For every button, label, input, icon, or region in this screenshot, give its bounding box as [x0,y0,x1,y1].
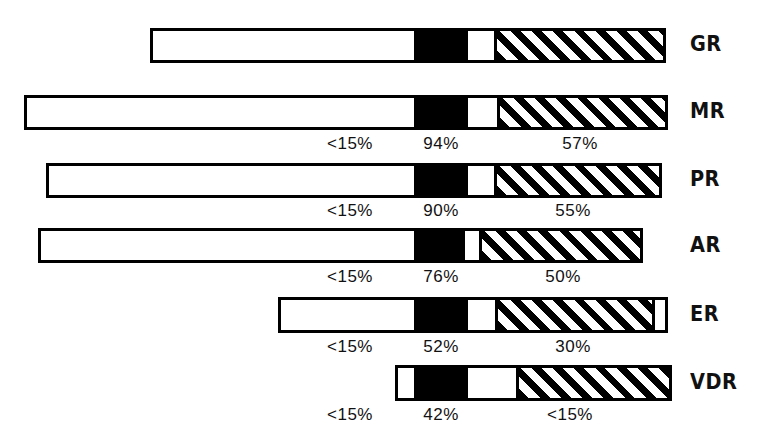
series-label-vdr: VDR [690,372,737,393]
segment-white-er [281,300,414,330]
series-label-er: ER [690,304,719,325]
percent-label-ar-hatch: 50% [534,268,592,285]
segment-black-mr [414,98,468,127]
segment-white-vdr [398,368,414,398]
percent-label-ar-white: <15% [315,268,385,285]
segment-tail-er [655,300,665,330]
segment-black-er [414,300,468,330]
segment-gap-mr [468,98,497,127]
segment-hatch-mr [497,98,668,127]
segment-hatch-pr [494,166,662,195]
segment-hatch-vdr [516,368,672,398]
series-label-ar: AR [690,235,721,256]
bar-gr [150,28,666,63]
percent-label-vdr-white: <15% [315,406,385,423]
segment-gap-pr [468,166,494,195]
percent-label-mr-hatch: 57% [551,135,609,152]
segment-gap-gr [468,31,494,60]
segment-gap-vdr [468,368,516,398]
bar-ar [38,228,643,263]
percent-label-er-hatch: 30% [544,338,602,355]
series-label-pr: PR [690,169,720,190]
segment-black-gr [414,31,468,60]
percent-label-pr-white: <15% [315,202,385,219]
percent-label-er-black: 52% [412,338,470,355]
percent-label-ar-black: 76% [412,268,470,285]
segment-black-pr [414,166,468,195]
segment-gap-er [468,300,495,330]
segment-white-mr [27,98,414,127]
segment-white-pr [49,166,414,195]
receptor-bar-chart: GRMRPRARERVDR <15%94%57%<15%90%55%<15%76… [0,0,760,446]
percent-label-vdr-black: 42% [412,406,470,423]
segment-white-ar [41,231,414,260]
segment-black-ar [414,231,465,260]
segment-white-gr [153,31,414,60]
percent-label-er-white: <15% [315,338,385,355]
segment-gap-ar [465,231,479,260]
segment-black-vdr [414,368,468,398]
series-label-mr: MR [690,101,725,122]
segment-hatch-er [495,300,655,330]
percent-label-mr-white: <15% [315,135,385,152]
bar-mr [24,95,668,130]
percent-label-pr-hatch: 55% [544,202,602,219]
series-label-gr: GR [690,34,722,55]
segment-hatch-gr [494,31,666,60]
segment-hatch-ar [479,231,643,260]
bar-vdr [395,365,672,401]
percent-label-vdr-hatch: <15% [535,406,605,423]
bar-er [278,297,668,333]
percent-label-pr-black: 90% [412,202,470,219]
percent-label-mr-black: 94% [412,135,470,152]
bar-pr [46,163,662,198]
